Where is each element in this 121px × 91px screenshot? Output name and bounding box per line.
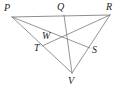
vertex-label-T: T [34, 43, 40, 53]
vertex-label-P: P [4, 3, 10, 13]
vertex-label-Q: Q [57, 2, 64, 12]
geometry-canvas [0, 0, 121, 91]
geometry-figure: P Q R W T S V [0, 0, 121, 91]
vertex-label-R: R [106, 2, 112, 12]
segment-cevian-QV [64, 15, 72, 73]
segment-cevian-PS [12, 17, 90, 48]
vertex-label-S: S [92, 45, 97, 55]
vertex-label-W: W [42, 31, 50, 41]
segment-side-PR [12, 15, 110, 17]
vertex-label-V: V [68, 76, 74, 86]
segment-side-PV [12, 17, 72, 73]
